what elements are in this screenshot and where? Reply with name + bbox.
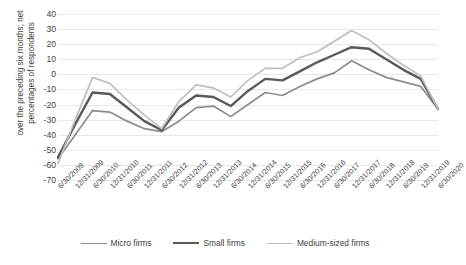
legend-item[interactable]: Micro firms — [81, 238, 152, 248]
y-axis-tick-label: -60 — [44, 160, 56, 170]
legend-swatch — [173, 242, 199, 244]
x-axis-tick-labels: 6/30/200912/31/20096/30/201012/31/20106/… — [58, 182, 438, 232]
y-axis-tick-label: -20 — [44, 100, 56, 110]
chart-legend: Micro firmsSmall firmsMedium-sized firms — [0, 238, 450, 248]
legend-item[interactable]: Small firms — [173, 238, 244, 248]
y-axis-title-line1: over the preceding six months; net — [15, 0, 26, 158]
y-axis-tick-label: 10 — [46, 54, 56, 64]
y-axis-tick-label: 0 — [51, 69, 56, 79]
y-axis-tick-label: -70 — [44, 175, 56, 185]
y-axis-tick-label: 20 — [46, 39, 56, 49]
legend-label: Medium-sized firms — [297, 238, 370, 248]
legend-swatch — [81, 243, 107, 244]
legend-label: Small firms — [203, 238, 244, 248]
y-axis-tick-label: 40 — [46, 9, 56, 19]
series-line — [58, 47, 438, 157]
series-line — [58, 61, 438, 159]
legend-label: Micro firms — [111, 238, 152, 248]
y-axis-tick-label: 30 — [46, 24, 56, 34]
legend-swatch — [267, 243, 293, 244]
plot-area — [58, 14, 438, 180]
y-axis-tick-label: -10 — [44, 84, 56, 94]
series-lines — [58, 14, 438, 180]
y-axis-tick-label: -50 — [44, 145, 56, 155]
y-axis-tick-labels: 403020100-10-20-30-40-50-60-70 — [32, 14, 56, 180]
y-axis-tick-label: -40 — [44, 130, 56, 140]
y-axis-tick-label: -30 — [44, 115, 56, 125]
legend-item[interactable]: Medium-sized firms — [267, 238, 370, 248]
